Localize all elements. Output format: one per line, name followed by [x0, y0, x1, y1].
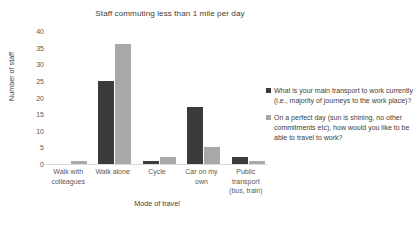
x-axis-tick: Publictransport(bus, train) — [224, 167, 268, 196]
x-axis-tick: Car on myown — [179, 167, 223, 196]
x-axis-tick-line: (bus, train) — [225, 186, 267, 196]
y-axis-tick: 40 — [22, 28, 44, 35]
legend-item[interactable]: On a perfect day (sun is shining, no oth… — [266, 113, 415, 143]
bar-group — [46, 31, 90, 164]
x-axis-line — [46, 164, 268, 165]
x-axis-tick-line: colleagues — [47, 177, 89, 187]
y-axis-tick: 30 — [22, 61, 44, 68]
legend-label: What is your main transport to work curr… — [274, 86, 415, 106]
y-axis-tick: 25 — [22, 77, 44, 84]
y-axis-tick: 0 — [22, 161, 44, 168]
x-axis-tick-labels: Walk withcolleaguesWalk aloneCycleCar on… — [46, 167, 268, 196]
x-axis-title: Mode of travel — [46, 199, 268, 208]
x-axis-tick-line: transport — [225, 177, 267, 187]
legend-swatch-icon — [266, 115, 271, 120]
x-axis-tick-line: Cycle — [136, 167, 178, 177]
y-axis-tick: 20 — [22, 94, 44, 101]
bar[interactable] — [98, 81, 114, 164]
bar[interactable] — [187, 107, 203, 164]
y-axis-tick-labels: 4035302520151050 — [22, 31, 44, 164]
y-axis-tick: 10 — [22, 127, 44, 134]
bar-group — [135, 31, 179, 164]
x-axis-tick: Cycle — [135, 167, 179, 196]
x-axis-tick-line: Walk alone — [91, 167, 133, 177]
bar-group — [224, 31, 268, 164]
x-axis-tick: Walk alone — [90, 167, 134, 196]
bar-group — [90, 31, 134, 164]
y-axis-tick: 15 — [22, 111, 44, 118]
bar[interactable] — [115, 44, 131, 164]
legend-item[interactable]: What is your main transport to work curr… — [266, 86, 415, 106]
legend-label: On a perfect day (sun is shining, no oth… — [274, 113, 415, 143]
bar-group — [179, 31, 223, 164]
y-axis-tick: 5 — [22, 144, 44, 151]
bar-chart: Staff commuting less than 1 mile per day… — [0, 0, 417, 226]
legend-swatch-icon — [266, 88, 271, 93]
chart-legend: What is your main transport to work curr… — [266, 86, 415, 150]
x-axis-tick-line: own — [180, 177, 222, 187]
bar[interactable] — [232, 157, 248, 164]
bar[interactable] — [204, 147, 220, 164]
x-axis-tick-line: Car on my — [180, 167, 222, 177]
chart-title: Staff commuting less than 1 mile per day — [60, 9, 280, 18]
y-axis-tick: 35 — [22, 44, 44, 51]
x-axis-tick-line: Public — [225, 167, 267, 177]
bar[interactable] — [160, 157, 176, 164]
x-axis-tick: Walk withcolleagues — [46, 167, 90, 196]
x-axis-tick-line: Walk with — [47, 167, 89, 177]
y-axis-title: Number of staff — [7, 42, 16, 112]
bar-groups — [46, 31, 268, 164]
